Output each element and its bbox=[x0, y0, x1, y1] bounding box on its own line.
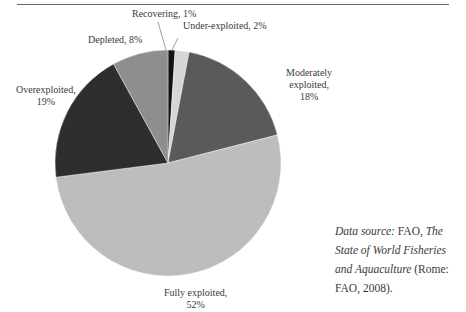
under-exploited-leader-line bbox=[172, 38, 178, 50]
label-depleted: Depleted, 8% bbox=[88, 34, 142, 46]
label-line: 18% bbox=[286, 91, 332, 103]
label-line: 19% bbox=[16, 96, 76, 108]
label-overexploited: Overexploited, 19% bbox=[16, 84, 76, 108]
label-line: Moderately bbox=[286, 67, 332, 79]
source-org: FAO, bbox=[395, 225, 426, 237]
label-line: Overexploited, bbox=[16, 84, 76, 96]
recovering-leader-line bbox=[158, 22, 166, 50]
label-under-exploited: Under-exploited, 2% bbox=[183, 20, 267, 32]
label-line: exploited, bbox=[286, 79, 332, 91]
data-source-note: Data source: FAO, The State of World Fis… bbox=[335, 222, 460, 298]
label-line: 52% bbox=[164, 299, 227, 311]
label-moderately-exploited: Moderately exploited, 18% bbox=[286, 67, 332, 103]
source-prefix: Data source: bbox=[335, 225, 395, 237]
label-line: Fully exploited, bbox=[164, 287, 227, 299]
label-fully-exploited: Fully exploited, 52% bbox=[164, 287, 227, 311]
label-recovering: Recovering, 1% bbox=[132, 8, 196, 20]
